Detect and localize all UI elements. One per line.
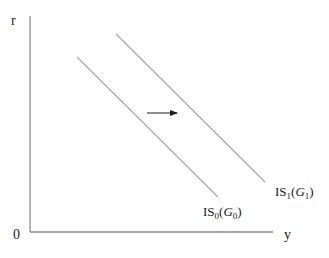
is0-label-var-sub: 0 xyxy=(233,211,238,221)
is-curve-diagram xyxy=(0,0,329,258)
origin-label: 0 xyxy=(13,228,20,242)
is0-label-sub: 0 xyxy=(215,211,220,221)
is1-label: IS1(G1) xyxy=(275,185,314,198)
is1-curve xyxy=(116,34,265,182)
y-axis-label: r xyxy=(11,14,16,28)
is0-label: IS0(G0) xyxy=(203,205,242,218)
is1-label-var: G xyxy=(295,184,304,199)
is1-label-sub: 1 xyxy=(287,191,292,201)
is0-curve xyxy=(77,57,218,197)
is1-label-var-sub: 1 xyxy=(305,191,310,201)
is1-label-main: IS xyxy=(275,184,287,199)
x-axis-label: y xyxy=(284,228,291,242)
is0-label-var: G xyxy=(223,204,232,219)
is0-label-main: IS xyxy=(203,204,215,219)
